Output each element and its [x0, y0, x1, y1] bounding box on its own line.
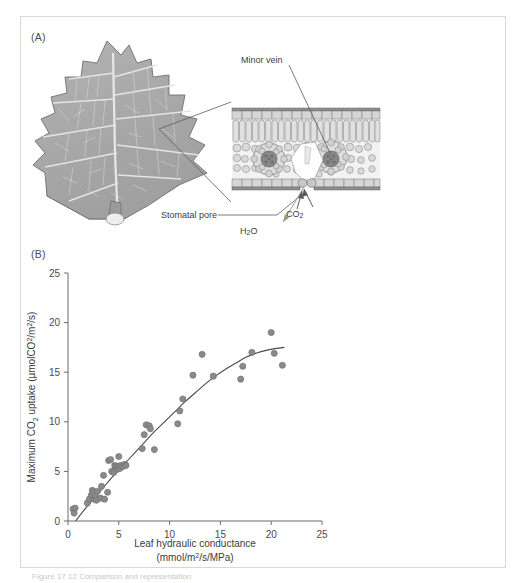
chart-svg: 0510152025 0510152025 Leaf hydraulic con… — [21, 246, 505, 568]
scatter-chart: 0510152025 0510152025 Leaf hydraulic con… — [21, 246, 505, 568]
co2-base: CO — [286, 209, 300, 219]
scatter-point — [139, 445, 145, 451]
scatter-point — [72, 505, 78, 511]
scatter-point — [101, 496, 107, 502]
x-tick-label: 20 — [266, 529, 278, 540]
scatter-point — [98, 483, 104, 489]
scatter-point — [123, 462, 129, 468]
panel-b: (B) 0510152025 0510152025 Leaf hydraulic… — [21, 246, 505, 568]
scatter-point — [268, 329, 274, 335]
label-h2o-formula: H2O — [240, 226, 257, 236]
x-tick-label: 0 — [65, 529, 71, 540]
scatter-point — [108, 456, 114, 462]
figure-caption: Figure 17.12 Comparison and representati… — [32, 572, 492, 582]
scatter-point — [210, 373, 216, 379]
y-tick-label: 5 — [54, 466, 60, 477]
scatter-point — [151, 446, 157, 452]
scatter-point — [100, 472, 106, 478]
leaf-cross-section-diagram — [231, 102, 381, 202]
scatter-point — [190, 372, 196, 378]
x-axis-title-line2: (mmol/m2/s/MPa) — [156, 552, 233, 563]
label-co2-formula: CO2 — [286, 209, 303, 219]
scatter-point — [238, 376, 244, 382]
h2o-tail: O — [250, 226, 257, 236]
y-axis-tick-labels: 0510152025 — [49, 268, 61, 527]
scatter-point — [249, 349, 255, 355]
scatter-points-group — [70, 329, 286, 516]
scatter-point — [271, 350, 277, 356]
scatter-point — [105, 489, 111, 495]
x-tick-label: 5 — [116, 529, 122, 540]
label-minor-vein: Minor vein — [241, 55, 283, 65]
y-tick-label: 10 — [49, 416, 61, 427]
y-tick-label: 15 — [49, 367, 61, 378]
scatter-point — [147, 426, 153, 432]
x-axis-title-line1: Leaf hydraulic conductance — [134, 538, 256, 549]
scatter-point — [180, 396, 186, 402]
label-stomatal-pore: Stomatal pore — [161, 210, 217, 220]
y-tick-label: 20 — [49, 317, 61, 328]
panel-a: (A) — [21, 17, 505, 245]
figure-page: (A) — [0, 0, 523, 583]
x-tick-label: 25 — [316, 529, 328, 540]
y-axis-title: Maximum CO2 uptake (µmolCO2/m2/s) — [26, 312, 39, 483]
co2-subscript: 2 — [300, 212, 304, 219]
scatter-point — [199, 351, 205, 357]
scatter-point — [116, 453, 122, 459]
y-tick-label: 0 — [54, 516, 60, 527]
scatter-point — [177, 408, 183, 414]
lobed-leaf-diagram — [29, 33, 219, 228]
scatter-point — [240, 363, 246, 369]
y-axis-ticks — [64, 273, 68, 521]
scatter-point — [175, 421, 181, 427]
scatter-point — [279, 362, 285, 368]
y-tick-label: 25 — [49, 268, 61, 279]
scatter-point — [141, 432, 147, 438]
x-axis-ticks — [68, 521, 322, 525]
